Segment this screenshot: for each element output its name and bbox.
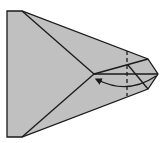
diagram-canvas: [0, 0, 168, 143]
origami-diagram: [0, 0, 168, 143]
